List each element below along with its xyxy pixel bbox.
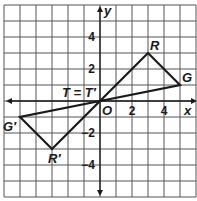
y-axis-arrow-up-icon (97, 6, 103, 12)
y-tick-label: −2 (81, 126, 95, 140)
y-tick-label: −4 (81, 158, 95, 172)
triangle-trg (100, 53, 180, 101)
point-label-t: T = T′ (62, 85, 97, 100)
coordinate-plane: 2442−2−4 x y O R G T = T′ G′ R′ (0, 0, 197, 201)
origin-label: O (102, 103, 112, 118)
triangle-t-primer-primeg-prime (20, 101, 100, 149)
y-tick-label: 4 (88, 30, 95, 44)
x-tick-label: 4 (161, 104, 168, 118)
point-label-r-prime: R′ (48, 151, 61, 166)
y-tick-label: 2 (88, 62, 95, 76)
point-label-g-prime: G′ (3, 119, 17, 134)
y-axis-arrow-down-icon (97, 190, 103, 196)
x-axis-arrow-left-icon (6, 98, 12, 104)
point-label-g: G (182, 70, 192, 85)
point-label-r: R (150, 38, 160, 53)
y-axis-label: y (103, 3, 112, 18)
x-tick-label: 2 (129, 104, 136, 118)
x-axis-label: x (183, 103, 192, 118)
